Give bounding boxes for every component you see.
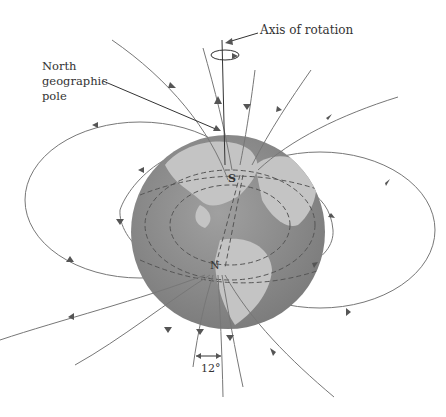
north-geo-label-line1: North bbox=[42, 59, 77, 73]
axis-of-rotation-label: Axis of rotation bbox=[259, 23, 354, 37]
north-geo-label-line2: geographic bbox=[42, 74, 108, 88]
north-geo-label-line3: pole bbox=[42, 89, 67, 103]
earth-magnetic-field-diagram: Axis of rotation North geographic pole S… bbox=[0, 0, 446, 417]
globe bbox=[131, 135, 325, 329]
angle-label: 12° bbox=[201, 362, 221, 375]
north-magnetic-pole-label: N bbox=[210, 259, 220, 272]
south-magnetic-pole-label: S bbox=[228, 172, 236, 185]
